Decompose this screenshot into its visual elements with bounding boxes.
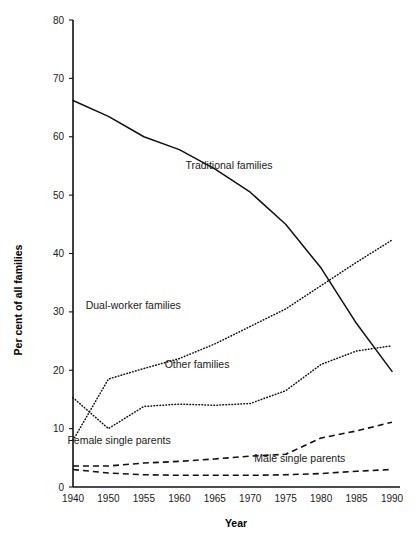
x-tick-label: 1980: [310, 493, 333, 504]
series-label-female-single-parents: Female single parents: [67, 434, 170, 446]
y-tick-label: 20: [53, 365, 65, 376]
x-axis-tick-labels: 1940195019551960196519701975198019851990: [62, 493, 404, 504]
x-tick-label: 1990: [381, 493, 404, 504]
series-line-male-single-parents: [73, 469, 392, 475]
y-tick-label: 30: [53, 306, 65, 317]
x-tick-label: 1975: [275, 493, 298, 504]
y-tick-label: 0: [58, 482, 64, 493]
series-label-dual-worker-families: Dual-worker families: [86, 299, 181, 311]
y-axis-title: Per cent of all families: [12, 244, 24, 355]
series-label-other-families: Other families: [165, 358, 230, 370]
y-tick-label: 60: [53, 131, 65, 142]
x-tick-label: 1985: [345, 493, 368, 504]
chart-figure: 01020304050607080 1940195019551960196519…: [0, 0, 420, 549]
x-axis-title: Year: [225, 517, 247, 529]
y-tick-label: 40: [53, 248, 65, 259]
series-line-traditional-families: [73, 101, 392, 372]
series-line-dual-worker-families: [73, 240, 392, 440]
y-axis-tick-labels: 01020304050607080: [53, 15, 65, 493]
y-tick-label: 10: [53, 423, 65, 434]
series-label-traditional-families: Traditional families: [185, 159, 272, 171]
x-tick-label: 1965: [204, 493, 227, 504]
x-tick-label: 1970: [239, 493, 262, 504]
x-tick-label: 1950: [97, 493, 120, 504]
y-tick-label: 80: [53, 15, 65, 26]
x-tick-label: 1960: [168, 493, 191, 504]
y-tick-label: 50: [53, 190, 65, 201]
series-inline-labels: Traditional familiesDual-worker families…: [67, 159, 345, 465]
line-chart: 01020304050607080 1940195019551960196519…: [0, 0, 420, 549]
x-tick-label: 1955: [133, 493, 156, 504]
series-line-other-families: [73, 346, 392, 429]
series-label-male-single-parents: Male single parents: [254, 452, 345, 464]
data-series-group: [73, 101, 392, 476]
y-tick-label: 70: [53, 73, 65, 84]
x-tick-label: 1940: [62, 493, 85, 504]
